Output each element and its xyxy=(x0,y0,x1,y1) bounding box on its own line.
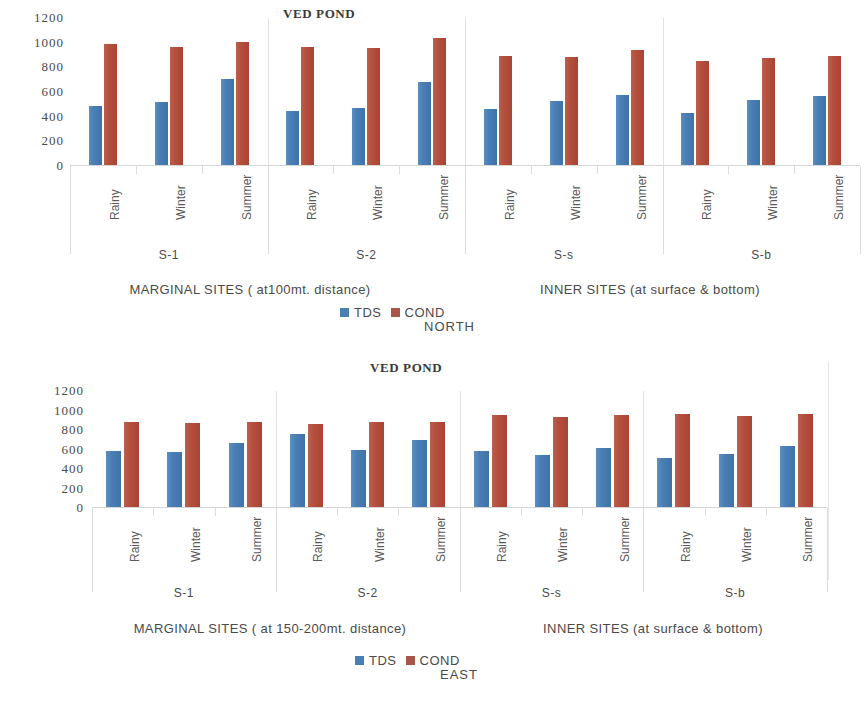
plot-area-east xyxy=(92,391,827,508)
season-label: Rainy xyxy=(495,531,509,562)
chart-east: VED POND 120010008006004002000 RainyWint… xyxy=(0,352,866,704)
axis-tick xyxy=(202,166,203,174)
axis-tick xyxy=(728,166,729,174)
group-divider xyxy=(276,391,277,507)
season-label: Rainy xyxy=(503,189,517,220)
season-label: Summer xyxy=(635,175,649,220)
y-tick-label: 200 xyxy=(42,133,65,149)
season-label: Winter xyxy=(556,527,570,562)
season-label: Summer xyxy=(437,175,451,220)
season-label: Winter xyxy=(174,185,188,220)
section-label-marginal: MARGINAL SITES ( at 150-200mt. distance) xyxy=(95,620,445,637)
bar-cond xyxy=(170,47,183,165)
y-tick-label: 1200 xyxy=(34,10,64,26)
axis-tick xyxy=(92,508,93,592)
y-tick-label: 400 xyxy=(62,461,85,477)
axis-tick xyxy=(794,166,795,174)
bar-cond xyxy=(367,48,380,165)
bar-cond xyxy=(696,61,709,165)
bar-tds xyxy=(474,451,489,507)
axis-tick xyxy=(268,166,269,254)
season-label: Winter xyxy=(371,185,385,220)
legend-swatch-tds-icon xyxy=(355,656,364,665)
y-tick-label: 1000 xyxy=(34,35,64,51)
bar-cond xyxy=(247,422,262,507)
axis-tick xyxy=(153,508,154,516)
y-tick-label: 1200 xyxy=(54,383,84,399)
season-label: Rainy xyxy=(128,531,142,562)
bar-tds xyxy=(351,450,366,507)
season-label: Winter xyxy=(373,527,387,562)
group-label: S-b xyxy=(643,586,827,600)
y-tick-label: 800 xyxy=(42,59,65,75)
bar-tds xyxy=(550,101,563,165)
group-label: S-1 xyxy=(70,248,268,262)
axis-tick xyxy=(399,166,400,174)
bar-cond xyxy=(369,422,384,507)
y-tick-label: 600 xyxy=(42,84,65,100)
axis-tick xyxy=(643,508,644,592)
season-label: Winter xyxy=(766,185,780,220)
season-label: Summer xyxy=(618,517,632,562)
season-label: Rainy xyxy=(305,189,319,220)
axis-tick xyxy=(766,508,767,516)
region-label-north: NORTH xyxy=(424,319,475,334)
bar-tds xyxy=(747,100,760,165)
bar-tds xyxy=(89,106,102,165)
legend-label-tds: TDS xyxy=(369,653,397,668)
bar-cond xyxy=(798,414,813,507)
legend-label-cond: COND xyxy=(420,653,460,668)
y-tick-label: 0 xyxy=(77,500,85,516)
legend-item-cond: COND xyxy=(406,653,460,668)
bar-tds xyxy=(657,458,672,507)
group-divider xyxy=(465,18,466,165)
chart-north: VED POND 120010008006004002000 RainyWint… xyxy=(0,0,866,340)
bar-cond xyxy=(430,422,445,507)
group-label: S-2 xyxy=(276,586,460,600)
axis-tick xyxy=(136,166,137,174)
axis-tick xyxy=(276,508,277,592)
bar-cond xyxy=(737,416,752,507)
season-label: Rainy xyxy=(700,189,714,220)
bar-cond xyxy=(675,414,690,507)
axis-tick xyxy=(333,166,334,174)
bar-cond xyxy=(553,417,568,507)
bar-tds xyxy=(418,82,431,165)
axis-tick xyxy=(531,166,532,174)
bar-tds xyxy=(681,113,694,165)
axis-tick xyxy=(705,508,706,516)
plot-area-north xyxy=(70,18,860,166)
bar-tds xyxy=(106,451,121,507)
bar-tds xyxy=(719,454,734,507)
season-label: Summer xyxy=(250,517,264,562)
season-label: Summer xyxy=(832,175,846,220)
bar-tds xyxy=(155,102,168,165)
group-label: S-1 xyxy=(92,586,276,600)
bar-cond xyxy=(301,47,314,165)
legend-item-tds: TDS xyxy=(355,653,397,668)
bar-cond xyxy=(631,50,644,165)
bar-tds xyxy=(286,111,299,165)
season-label: Winter xyxy=(569,185,583,220)
y-axis-east: 120010008006004002000 xyxy=(22,391,84,508)
group-label: S-s xyxy=(460,586,644,600)
bar-cond xyxy=(236,42,249,165)
group-label: S-2 xyxy=(268,248,466,262)
y-axis-north: 120010008006004002000 xyxy=(2,18,64,166)
season-label: Rainy xyxy=(311,531,325,562)
legend-swatch-cond-icon xyxy=(406,656,415,665)
bar-cond xyxy=(499,56,512,165)
axis-tick xyxy=(663,166,664,254)
group-divider xyxy=(460,391,461,507)
season-label: Summer xyxy=(801,517,815,562)
season-label: Summer xyxy=(240,175,254,220)
figure-page: VED POND 120010008006004002000 RainyWint… xyxy=(0,0,866,704)
season-label: Rainy xyxy=(108,189,122,220)
bar-tds xyxy=(221,79,234,165)
bar-cond xyxy=(104,44,117,165)
bar-tds xyxy=(484,109,497,165)
group-divider xyxy=(643,391,644,507)
season-label: Summer xyxy=(434,517,448,562)
bar-tds xyxy=(813,96,826,165)
bar-tds xyxy=(780,446,795,507)
